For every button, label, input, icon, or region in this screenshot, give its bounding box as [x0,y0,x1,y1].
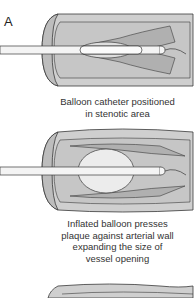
caption-line: Balloon catheter positioned [40,96,195,108]
step-3-illustration [0,282,195,298]
caption-line: Inflated balloon presses [40,218,195,230]
caption-line: expanding the size of [40,241,195,253]
step-1-caption: Balloon catheter positioned in stenotic … [40,96,195,119]
step-2-caption: Inflated balloon presses plaque against … [40,218,195,264]
caption-line: vessel opening [40,253,195,265]
caption-line: plaque against arterial wall [40,230,195,242]
caption-line: in stenotic area [40,108,195,120]
step-1-illustration [0,12,195,90]
step-2-illustration [0,126,195,214]
